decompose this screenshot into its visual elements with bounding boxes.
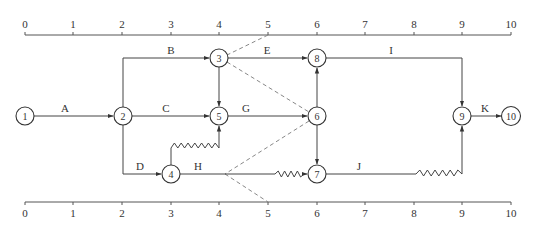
top-time-axis: 0 1 2 3 4 5 6 7 8 9 10 (22, 18, 517, 35)
node-8: 8 (308, 49, 326, 67)
activity-i-arrow (326, 58, 462, 106)
svg-text:6: 6 (315, 111, 320, 122)
check-frontline (225, 35, 309, 202)
top-tick-0: 0 (22, 18, 28, 30)
svg-text:8: 8 (315, 53, 320, 64)
bottom-tick-0: 0 (22, 207, 28, 219)
node-2: 2 (114, 107, 132, 125)
node-7: 7 (308, 165, 326, 183)
bottom-tick-4: 4 (216, 207, 222, 219)
bottom-tick-9: 9 (459, 207, 465, 219)
top-tick-4: 4 (216, 18, 222, 30)
bottom-tick-1: 1 (70, 207, 76, 219)
svg-text:3: 3 (217, 53, 222, 64)
node-9: 9 (453, 107, 471, 125)
dummy-4-5-free-float-wave (171, 143, 219, 148)
bottom-tick-5: 5 (265, 207, 271, 219)
bottom-time-axis: 0 1 2 3 4 5 6 7 8 9 10 (22, 202, 517, 219)
activity-a-label: A (61, 102, 69, 114)
top-tick-8: 8 (411, 18, 417, 30)
bottom-tick-2: 2 (119, 207, 125, 219)
node-3: 3 (210, 49, 228, 67)
node-1: 1 (16, 107, 34, 125)
svg-text:1: 1 (23, 111, 28, 122)
activity-edges (34, 58, 501, 177)
top-tick-2: 2 (119, 18, 125, 30)
activity-k-label: K (481, 102, 489, 114)
activity-j-label: J (357, 160, 362, 172)
top-tick-6: 6 (314, 18, 320, 30)
activity-c-label: C (162, 102, 169, 114)
activity-i-label: I (389, 44, 393, 56)
node-4: 4 (162, 165, 180, 183)
bottom-tick-8: 8 (411, 207, 417, 219)
svg-text:5: 5 (217, 111, 222, 122)
top-tick-3: 3 (168, 18, 174, 30)
activity-e-label: E (264, 44, 271, 56)
svg-text:9: 9 (460, 111, 465, 122)
activity-h-label: H (194, 160, 202, 172)
svg-text:4: 4 (169, 169, 174, 180)
activity-h-free-float-wave (275, 171, 304, 177)
activity-g-label: G (242, 102, 250, 114)
bottom-tick-7: 7 (362, 207, 368, 219)
bottom-tick-10: 10 (506, 207, 518, 219)
activity-j-free-float-wave (416, 170, 462, 176)
activity-b-arrow (123, 58, 209, 107)
svg-text:2: 2 (121, 111, 126, 122)
activity-b-label: B (167, 44, 174, 56)
node-5: 5 (210, 107, 228, 125)
top-tick-9: 9 (459, 18, 465, 30)
network-diagram: 0 1 2 3 4 5 6 7 8 9 10 0 1 2 3 4 5 6 7 8… (0, 0, 534, 239)
top-tick-5: 5 (265, 18, 271, 30)
top-tick-10: 10 (506, 18, 518, 30)
top-tick-1: 1 (70, 18, 76, 30)
activity-d-label: D (136, 160, 144, 172)
svg-text:7: 7 (315, 169, 320, 180)
node-10: 10 (502, 107, 521, 126)
node-6: 6 (308, 107, 326, 125)
bottom-tick-3: 3 (168, 207, 174, 219)
bottom-tick-6: 6 (314, 207, 320, 219)
top-tick-7: 7 (362, 18, 368, 30)
svg-text:10: 10 (506, 111, 516, 122)
